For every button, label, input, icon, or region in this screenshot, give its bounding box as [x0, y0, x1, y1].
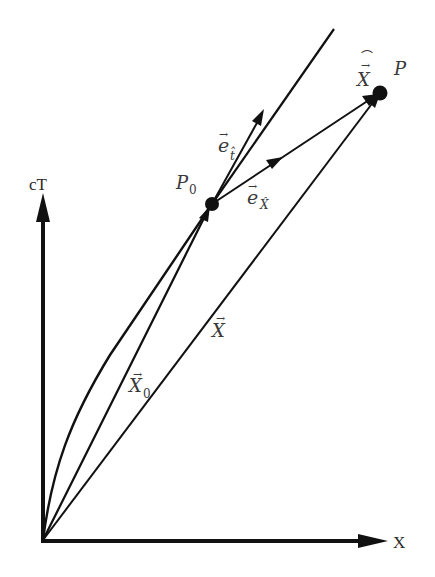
- vector-x: [43, 94, 380, 540]
- point-p-label: P: [393, 58, 407, 79]
- svg-text:0: 0: [143, 387, 151, 401]
- vector-x-hat: [212, 94, 378, 204]
- svg-text:X: X: [127, 375, 143, 396]
- vector-x-hat-label: ⌒ → X: [355, 50, 373, 90]
- worldline-tangent-line: [205, 29, 334, 214]
- vertical-axis-label: cT: [29, 175, 48, 194]
- svg-text:X: X: [210, 320, 226, 341]
- vector-x0: [43, 206, 210, 540]
- vector-x0-label: → X 0: [127, 368, 151, 401]
- horizontal-axis: [41, 534, 388, 548]
- point-p0: [205, 197, 219, 211]
- point-p0-label: P 0: [175, 172, 197, 197]
- vector-e-t-label: → e t̂: [218, 128, 236, 163]
- svg-text:e: e: [247, 186, 258, 208]
- vertical-axis: [36, 193, 50, 543]
- svg-text:e: e: [218, 134, 229, 156]
- horizontal-axis-label: X: [393, 533, 405, 552]
- svg-text:P: P: [175, 172, 189, 193]
- vector-e-x-label: → e X̂: [247, 180, 269, 212]
- point-p: [373, 86, 388, 101]
- spacetime-diagram: cT X P 0 P ⌒ → X → e t̂ → e X̂ → X → X 0: [0, 0, 435, 577]
- vertical-axis-arrowhead-icon: [36, 193, 50, 222]
- svg-text:X̂: X̂: [259, 197, 269, 212]
- svg-text:X: X: [355, 69, 371, 90]
- vector-e-t-arrowhead-icon: [252, 109, 264, 126]
- svg-text:0: 0: [189, 183, 197, 197]
- horizontal-axis-arrowhead-icon: [358, 534, 388, 548]
